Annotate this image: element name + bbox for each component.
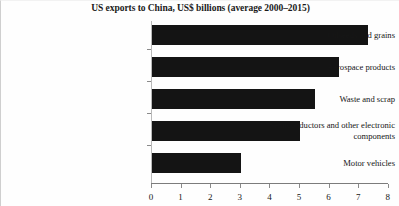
category-label-semiconductors-and-other-electronic-components: Semiconductors and other electronic comp… [249,120,395,141]
x-tick-6 [329,184,330,188]
x-tick-label-7: 7 [348,192,368,202]
chart-title: US exports to China, US$ billions (avera… [1,2,399,14]
x-tick-label-1: 1 [171,192,191,202]
x-tick-label-2: 2 [200,192,220,202]
bar-motor-vehicles[interactable] [152,153,241,173]
y-tick-4 [147,145,151,146]
x-tick-label-3: 3 [230,192,250,202]
category-label-aerospace-products: Aerospace products [249,62,395,73]
x-tick-1 [181,184,182,188]
category-label-waste-and-scrap: Waste and scrap [249,94,395,105]
x-tick-3 [240,184,241,188]
category-label-oilseeds-and-grains: Oilseeds and grains [249,30,395,41]
x-tick-5 [299,184,300,188]
x-tick-7 [358,184,359,188]
x-tick-label-6: 6 [319,192,339,202]
x-tick-4 [269,184,270,188]
x-tick-label-5: 5 [289,192,309,202]
x-tick-2 [210,184,211,188]
x-tick-0 [151,184,152,188]
y-tick-1 [147,49,151,50]
x-tick-label-8: 8 [378,192,398,202]
x-tick-label-4: 4 [259,192,279,202]
category-label-motor-vehicles: Motor vehicles [249,158,395,169]
chart-figure: US exports to China, US$ billions (avera… [0,0,399,206]
x-tick-label-0: 0 [141,192,161,202]
y-tick-2 [147,81,151,82]
x-tick-8 [388,184,389,188]
y-tick-3 [147,113,151,114]
